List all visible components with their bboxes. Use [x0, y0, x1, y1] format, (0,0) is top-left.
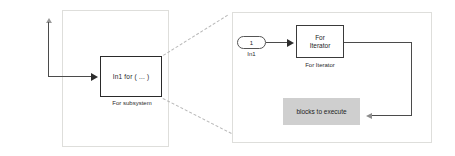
- for-subsystem-block-label: In1 for ( ... ): [113, 73, 150, 80]
- input-wire-horizontal-segment: [48, 76, 92, 77]
- loop-wire-right-segment: [411, 42, 412, 116]
- in1-port-number: 1: [250, 40, 253, 46]
- loop-wire-top-segment: [344, 42, 412, 43]
- in1-wire-right-arrow-icon: [287, 39, 294, 47]
- blocks-to-execute-label: blocks to execute: [296, 108, 346, 115]
- in1-port-caption: In1: [237, 51, 266, 57]
- for-iterator-block[interactable]: For Iterator: [296, 25, 344, 58]
- for-iterator-label-line-1: For: [315, 34, 325, 41]
- for-iterator-block-caption: For Iterator: [296, 62, 344, 68]
- for-iterator-label-line-2: Iterator: [310, 42, 331, 49]
- blocks-to-execute-region[interactable]: blocks to execute: [283, 98, 360, 125]
- in1-input-port[interactable]: 1: [237, 36, 266, 49]
- dashed-expansion-leader-top-icon: [163, 15, 228, 56]
- in1-to-iterator-wire: [266, 42, 288, 43]
- dashed-expansion-leader-bottom-icon: [163, 98, 237, 136]
- loop-wire-bottom-segment: [371, 115, 412, 116]
- for-subsystem-block[interactable]: In1 for ( ... ): [100, 56, 162, 97]
- for-subsystem-block-caption: For subsystem: [86, 100, 178, 106]
- input-wire-right-arrow-icon: [91, 73, 98, 81]
- input-wire-vertical-segment: [48, 22, 49, 77]
- loop-wire-left-arrow-icon: [366, 113, 372, 119]
- diagram-canvas: In1 for ( ... ) For subsystem 1 In1 For …: [0, 0, 455, 156]
